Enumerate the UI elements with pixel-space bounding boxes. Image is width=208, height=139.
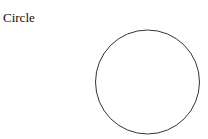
- circle-shape: [96, 30, 200, 134]
- diagram-canvas: [0, 0, 208, 139]
